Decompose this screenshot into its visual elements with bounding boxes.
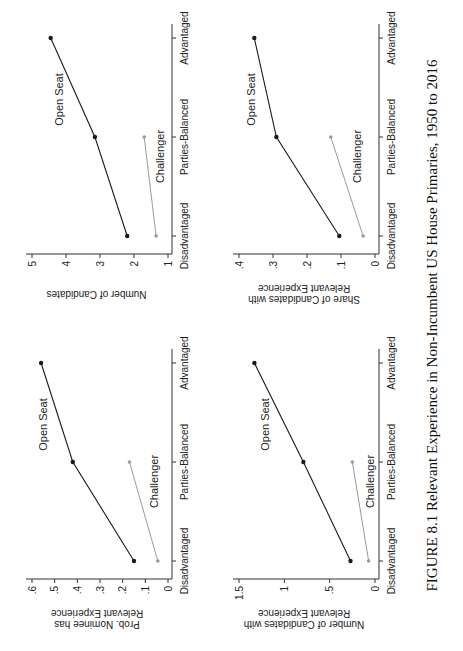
chart-svg: 12345DisadvantagedParties-BalancedAdvant…	[18, 16, 208, 316]
y-tick-label: .3	[95, 586, 106, 595]
y-tick-label: 0	[370, 261, 381, 267]
data-point	[348, 559, 352, 563]
x-tick-label: Advantaged	[179, 11, 190, 64]
data-point	[351, 460, 355, 464]
y-tick-label: 5	[27, 261, 38, 267]
panel-prob-nominee: 0.1.2.3.4.5.6DisadvantagedParties-Balanc…	[18, 341, 208, 641]
y-tick-label: .1	[140, 586, 151, 595]
x-tick-label: Disadvantaged	[386, 203, 397, 270]
panel-number-relevant: 0.511.5DisadvantagedParties-BalancedAdva…	[225, 341, 415, 641]
panel-number-candidates: 12345DisadvantagedParties-BalancedAdvant…	[18, 16, 208, 316]
challenger-label: Challenger	[154, 130, 166, 184]
x-tick-label: Advantaged	[386, 11, 397, 64]
data-point	[39, 361, 43, 365]
y-axis-title-line1: Share of Candidates with	[229, 294, 379, 305]
data-point	[125, 234, 129, 238]
y-axis-title-line1: Number of Candidates with	[229, 619, 379, 630]
data-point	[156, 559, 160, 563]
y-tick-label: .1	[336, 261, 347, 270]
x-tick-label: Disadvantaged	[179, 203, 190, 270]
y-tick-label: .4	[72, 586, 83, 595]
challenger-label: Challenger	[351, 130, 363, 184]
chart-svg: 0.511.5DisadvantagedParties-BalancedAdva…	[225, 341, 415, 641]
data-point	[274, 135, 278, 139]
data-point	[49, 36, 53, 40]
open-seat-label: Open Seat	[259, 398, 271, 451]
y-axis-title-line1: Prob. Nominee has	[22, 619, 172, 630]
x-tick-label: Parties-Balanced	[179, 424, 190, 500]
open-seat-line	[254, 38, 339, 236]
y-tick-label: .2	[117, 586, 128, 595]
data-point	[301, 460, 305, 464]
chart-svg: 0.1.2.3.4DisadvantagedParties-BalancedAd…	[225, 16, 415, 316]
y-tick-label: 0	[163, 586, 174, 592]
y-axis-title-line2: Relevant Experience	[22, 608, 172, 619]
y-tick-label: 4	[61, 261, 72, 267]
y-axis-title-line1: Number of Candidates	[22, 289, 172, 300]
y-tick-label: .5	[49, 586, 60, 595]
x-tick-label: Disadvantaged	[179, 528, 190, 595]
data-point	[93, 135, 97, 139]
data-point	[154, 234, 158, 238]
data-point	[71, 460, 75, 464]
chart-svg: 0.1.2.3.4.5.6DisadvantagedParties-Balanc…	[18, 341, 208, 641]
y-tick-label: 1.5	[234, 586, 245, 600]
y-tick-label: .2	[302, 261, 313, 270]
y-tick-label: 1	[163, 261, 174, 267]
open-seat-line	[41, 363, 134, 561]
data-point	[367, 559, 371, 563]
y-tick-label: 1	[279, 586, 290, 592]
x-tick-label: Parties-Balanced	[386, 99, 397, 175]
data-point	[128, 460, 132, 464]
y-axis-title: Prob. Nominee hasRelevant Experience	[22, 608, 172, 630]
data-point	[337, 234, 341, 238]
challenger-label: Challenger	[148, 455, 160, 509]
open-seat-line	[51, 38, 128, 236]
y-axis-title-line2: Relevant Experience	[229, 283, 379, 294]
y-axis-title: Share of Candidates withRelevant Experie…	[229, 283, 379, 305]
data-point	[142, 135, 146, 139]
challenger-label: Challenger	[364, 455, 376, 509]
x-tick-label: Parties-Balanced	[179, 99, 190, 175]
data-point	[252, 36, 256, 40]
y-axis-title: Number of Candidates	[22, 289, 172, 300]
y-tick-label: .6	[27, 586, 38, 595]
y-tick-label: 3	[95, 261, 106, 267]
open-seat-label: Open Seat	[37, 398, 49, 451]
data-point	[252, 361, 256, 365]
panel-share-relevant: 0.1.2.3.4DisadvantagedParties-BalancedAd…	[225, 16, 415, 316]
y-tick-label: 0	[370, 586, 381, 592]
figure-caption: FIGURE 8.1 Relevant Experience in Non-In…	[424, 0, 441, 651]
data-point	[361, 234, 365, 238]
y-tick-label: .4	[234, 261, 245, 270]
x-tick-label: Advantaged	[386, 336, 397, 389]
y-tick-label: .3	[268, 261, 279, 270]
x-tick-label: Advantaged	[179, 336, 190, 389]
x-tick-label: Disadvantaged	[386, 528, 397, 595]
data-point	[329, 135, 333, 139]
open-seat-label: Open Seat	[53, 73, 65, 126]
open-seat-label: Open Seat	[245, 73, 257, 126]
y-tick-label: 2	[129, 261, 140, 267]
y-tick-label: .5	[324, 586, 335, 595]
data-point	[132, 559, 136, 563]
rotated-page: 0.1.2.3.4.5.6DisadvantagedParties-Balanc…	[0, 0, 463, 651]
x-tick-label: Parties-Balanced	[386, 424, 397, 500]
y-axis-title-line2: Relevant Experience	[229, 608, 379, 619]
y-axis-title: Number of Candidates withRelevant Experi…	[229, 608, 379, 630]
